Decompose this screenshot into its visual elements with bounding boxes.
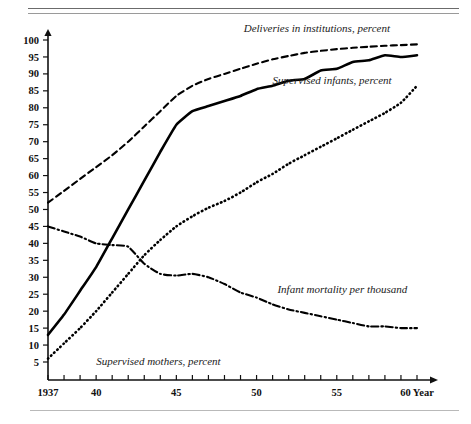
- y-tick-label: 95: [29, 52, 40, 63]
- y-tick-label: 75: [29, 119, 40, 130]
- y-tick-label: 20: [29, 306, 40, 317]
- series-line-0: [48, 44, 417, 202]
- series-label-2: Supervised mothers, percent: [96, 355, 221, 367]
- x-tick-label: 40: [91, 387, 102, 398]
- y-tick-label: 10: [29, 340, 40, 351]
- y-tick-label: 40: [29, 238, 40, 249]
- y-tick-label: 25: [29, 289, 40, 300]
- y-tick-label: 90: [29, 68, 40, 79]
- y-tick-label: 80: [29, 102, 40, 113]
- y-tick-label: 70: [29, 136, 40, 147]
- x-tick-label: 55: [332, 387, 343, 398]
- y-tick-label: 60: [29, 170, 40, 181]
- series-label-3: Infant mortality per thousand: [276, 283, 407, 295]
- series-line-2: [48, 86, 417, 359]
- x-tick-label: 45: [171, 387, 182, 398]
- x-axis-tick-labels: 19374045505560 Year: [38, 387, 435, 398]
- y-tick-label: 55: [29, 187, 40, 198]
- y-tick-label: 5: [34, 357, 39, 368]
- y-tick-label: 35: [29, 255, 40, 266]
- series-label-0: Deliveries in institutions, percent: [243, 22, 391, 34]
- x-tick-label: 1937: [38, 387, 59, 398]
- series-line-3: [48, 226, 417, 328]
- y-tick-label: 65: [29, 153, 40, 164]
- y-tick-label: 45: [29, 221, 40, 232]
- y-tick-label: 30: [29, 272, 40, 283]
- x-axis-title: 60 Year: [400, 387, 434, 398]
- chart-figure: 5101520253035404550556065707580859095100…: [0, 0, 471, 424]
- data-series-group: [48, 44, 417, 358]
- y-tick-label: 100: [23, 35, 39, 46]
- x-tick-label: 50: [251, 387, 262, 398]
- series-annotations: Deliveries in institutions, percentSuper…: [96, 22, 408, 368]
- y-tick-label: 15: [29, 323, 40, 334]
- y-tick-label: 50: [29, 204, 40, 215]
- line-chart-svg: 5101520253035404550556065707580859095100…: [0, 0, 471, 424]
- y-axis-tick-labels: 5101520253035404550556065707580859095100: [23, 35, 39, 368]
- y-tick-label: 85: [29, 85, 40, 96]
- series-label-1: Supervised infants, percent: [273, 74, 393, 86]
